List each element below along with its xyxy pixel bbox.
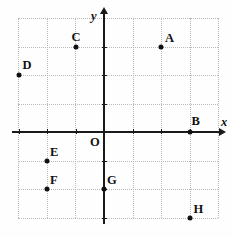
grid-line-vertical [133, 18, 134, 218]
point-label: C [72, 31, 81, 44]
x-axis-arrow [219, 128, 226, 136]
y-axis [103, 13, 105, 224]
plotted-point [187, 215, 192, 220]
plotted-point [159, 44, 164, 49]
plotted-point [45, 187, 50, 192]
plotted-point [45, 158, 50, 163]
point-label: B [192, 115, 200, 128]
y-axis-tick [102, 75, 107, 76]
plotted-point [73, 44, 78, 49]
grid-line-horizontal [18, 75, 218, 76]
y-axis-tick [102, 161, 107, 162]
x-axis-tick [19, 129, 20, 134]
plotted-point [102, 187, 107, 192]
grid-line-vertical [190, 18, 191, 218]
origin-label: O [90, 136, 100, 149]
point-label: G [107, 174, 117, 187]
y-axis-tick [102, 218, 107, 219]
point-label: E [50, 146, 58, 159]
x-axis-label: x [221, 116, 227, 129]
point-label: H [194, 203, 204, 216]
x-axis-tick [76, 129, 77, 134]
y-axis-arrow [100, 7, 108, 14]
grid-line-vertical [18, 18, 19, 218]
point-label: A [165, 32, 174, 45]
x-axis-tick [161, 129, 162, 134]
coordinate-plane-figure: ABCDEFGH O x y [0, 0, 232, 237]
grid-line-vertical [218, 18, 219, 218]
plotted-point [16, 73, 21, 78]
point-label: D [23, 59, 32, 72]
plotted-point [187, 130, 192, 135]
y-axis-tick [102, 104, 107, 105]
y-axis-label: y [91, 10, 97, 23]
grid-line-horizontal [18, 18, 218, 19]
y-axis-tick [102, 47, 107, 48]
x-axis-tick [133, 129, 134, 134]
grid-line-horizontal [18, 104, 218, 105]
grid-line-horizontal [18, 47, 218, 48]
x-axis-tick [47, 129, 48, 134]
point-label: F [50, 174, 58, 187]
